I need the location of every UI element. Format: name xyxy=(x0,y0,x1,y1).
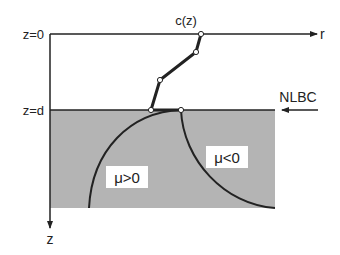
cz-label: c(z) xyxy=(175,13,197,28)
profile-node xyxy=(198,31,203,36)
mu-negative-label: μ<0 xyxy=(214,149,240,166)
r-axis-label: r xyxy=(320,26,325,42)
profile-node xyxy=(157,77,162,82)
profile-node xyxy=(193,49,198,54)
diagram: z=0 z=d r z c(z) NLBC μ>0 μ<0 xyxy=(0,0,340,255)
z-axis-label: z xyxy=(47,231,54,247)
nlbc-label: NLBC xyxy=(279,89,316,105)
mu-positive-label: μ>0 xyxy=(114,169,140,186)
zd-label: z=d xyxy=(23,103,44,118)
profile-node xyxy=(178,107,183,112)
z0-label: z=0 xyxy=(23,27,44,42)
cz-profile xyxy=(151,34,201,110)
profile-node xyxy=(148,107,153,112)
